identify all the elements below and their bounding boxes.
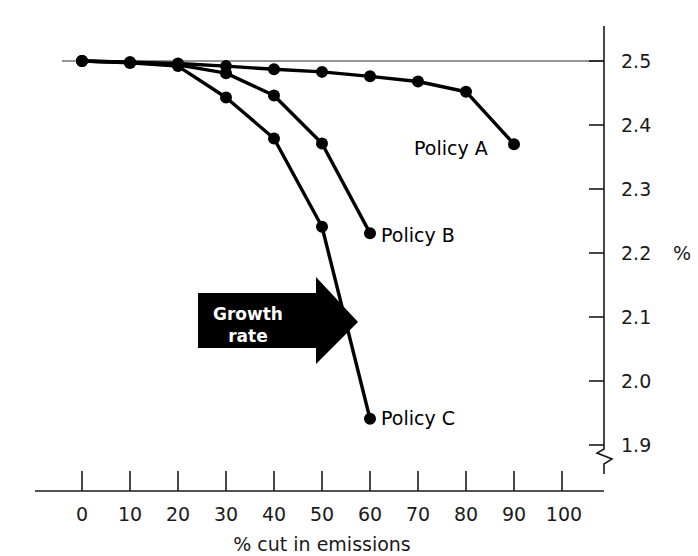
emissions-growth-rate-chart: 2.5 2.4 2.3 2.2 2.1 2.0 1.9 % 0 10 20 30… (0, 0, 698, 556)
data-point (268, 90, 280, 102)
x-tick-label-100: 100 (546, 503, 582, 525)
growth-rate-arrow: Growth rate (198, 277, 358, 364)
data-point (316, 138, 328, 150)
data-point (124, 57, 136, 69)
data-point (364, 70, 376, 82)
y-axis: 2.5 2.4 2.3 2.2 2.1 2.0 1.9 % (589, 26, 691, 474)
data-point (364, 227, 376, 239)
data-point (220, 91, 232, 103)
data-point (364, 413, 376, 425)
data-point (172, 60, 184, 72)
x-tick-label-80: 80 (454, 503, 478, 525)
series-policy-a (76, 55, 520, 150)
x-tick-label-0: 0 (76, 503, 88, 525)
y-tick-label-2-2: 2.2 (621, 242, 651, 264)
x-tick-label-70: 70 (406, 503, 430, 525)
y-tick-label-1-9: 1.9 (621, 434, 651, 456)
data-point (412, 75, 424, 87)
x-tick-label-90: 90 (502, 503, 526, 525)
series-policy-b (76, 55, 376, 239)
growth-rate-arrow-line1: Growth (213, 304, 283, 324)
x-tick-label-30: 30 (214, 503, 238, 525)
series-policy-c (76, 55, 376, 425)
y-tick-label-2-4: 2.4 (621, 114, 651, 136)
x-tick-label-20: 20 (166, 503, 190, 525)
x-tick-label-10: 10 (118, 503, 142, 525)
x-axis: 0 10 20 30 40 50 60 70 80 90 100 % cut i… (35, 471, 604, 555)
data-point (268, 63, 280, 75)
series-label-policy-a: Policy A (414, 137, 488, 159)
x-tick-label-50: 50 (310, 503, 334, 525)
data-point (460, 86, 472, 98)
x-tick-label-40: 40 (262, 503, 286, 525)
y-tick-label-2-1: 2.1 (621, 306, 651, 328)
series-line (82, 61, 370, 419)
series-label-policy-c: Policy C (381, 407, 455, 429)
data-point (316, 66, 328, 78)
y-tick-label-2-0: 2.0 (621, 370, 651, 392)
series-line (82, 61, 514, 144)
data-point (508, 138, 520, 150)
series-label-policy-b: Policy B (381, 224, 455, 246)
data-point (268, 132, 280, 144)
y-tick-label-2-3: 2.3 (621, 178, 651, 200)
x-tick-label-60: 60 (358, 503, 382, 525)
data-point (220, 67, 232, 79)
data-point (76, 55, 88, 67)
data-point (316, 221, 328, 233)
growth-rate-arrow-line2: rate (228, 326, 268, 346)
y-tick-label-2-5: 2.5 (621, 50, 651, 72)
x-axis-title: % cut in emissions (233, 533, 411, 555)
y-axis-unit-label: % (673, 242, 691, 264)
